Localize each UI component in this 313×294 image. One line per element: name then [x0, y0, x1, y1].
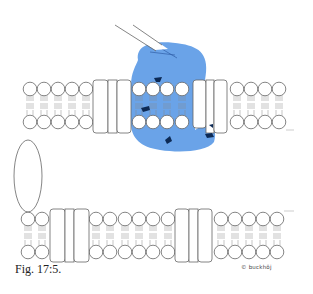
copyright-credit: © buckhöj — [241, 264, 272, 270]
figure-caption: Fig. 17:5. — [15, 262, 61, 277]
oval-cell — [14, 140, 42, 212]
membrane-diagram — [0, 0, 313, 294]
lower-membrane — [21, 209, 294, 262]
micropipette — [115, 25, 168, 51]
